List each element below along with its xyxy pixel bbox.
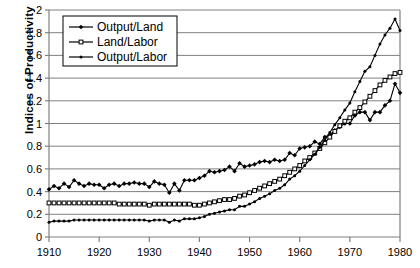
data-point-marker: [338, 124, 342, 128]
data-point-marker: [233, 197, 237, 201]
y-tick-label: 0.8: [27, 140, 42, 152]
data-point-marker: [223, 198, 227, 202]
data-point-marker: [82, 201, 86, 205]
x-tick-label: 1940: [187, 246, 211, 258]
data-point-marker: [223, 209, 226, 212]
data-point-marker: [218, 211, 221, 214]
data-point-marker: [253, 200, 256, 203]
x-tick-label: 1930: [137, 246, 161, 258]
data-point-marker: [217, 169, 222, 174]
data-point-marker: [73, 218, 76, 221]
data-point-marker: [258, 186, 262, 190]
data-point-marker: [183, 217, 186, 220]
data-point-marker: [80, 56, 83, 59]
data-point-marker: [263, 184, 267, 188]
data-point-marker: [263, 195, 266, 198]
data-point-marker: [197, 176, 202, 181]
data-point-marker: [79, 40, 83, 44]
data-point-marker: [363, 100, 367, 104]
data-point-marker: [163, 218, 166, 221]
data-point-marker: [248, 203, 251, 206]
data-point-marker: [212, 170, 217, 175]
data-point-marker: [203, 202, 207, 206]
data-point-marker: [112, 201, 116, 205]
data-point-marker: [247, 163, 252, 168]
chart-container: Indices of Productivity 00.20.40.60.811.…: [0, 0, 420, 268]
data-point-marker: [348, 102, 351, 105]
series-line: [49, 84, 400, 193]
data-point-marker: [57, 201, 61, 205]
data-point-marker: [198, 216, 201, 219]
data-point-marker: [178, 220, 181, 223]
series-land-labor: [47, 71, 402, 208]
data-point-marker: [298, 170, 301, 173]
data-point-marker: [399, 29, 402, 32]
data-point-marker: [88, 218, 91, 221]
y-tick-label: 0.4: [27, 186, 42, 198]
data-point-marker: [298, 164, 302, 168]
data-point-marker: [393, 81, 398, 86]
data-point-marker: [328, 131, 331, 134]
data-point-marker: [383, 78, 387, 82]
legend-label: Output/Labor: [97, 50, 167, 64]
data-point-marker: [252, 162, 257, 167]
data-point-marker: [368, 65, 371, 68]
data-point-marker: [193, 217, 196, 220]
data-point-marker: [313, 153, 316, 156]
data-point-marker: [98, 218, 101, 221]
data-point-marker: [343, 108, 346, 111]
data-point-marker: [198, 203, 202, 207]
data-point-marker: [293, 174, 296, 177]
data-point-marker: [383, 33, 386, 36]
data-point-marker: [373, 89, 377, 93]
data-point-marker: [278, 177, 282, 181]
data-point-marker: [277, 159, 282, 164]
data-point-marker: [267, 160, 272, 165]
data-point-marker: [127, 202, 131, 206]
data-point-marker: [228, 198, 232, 202]
data-point-marker: [348, 116, 352, 120]
data-point-marker: [107, 201, 111, 205]
data-point-marker: [153, 218, 156, 221]
data-point-marker: [283, 183, 286, 186]
data-point-marker: [173, 218, 176, 221]
data-point-marker: [272, 158, 277, 163]
data-point-marker: [208, 201, 212, 205]
data-point-marker: [363, 70, 366, 73]
legend-label: Output/Land: [97, 20, 163, 34]
data-point-marker: [358, 80, 361, 83]
y-tick-label: 0: [36, 231, 42, 243]
data-point-marker: [333, 130, 337, 134]
data-point-marker: [187, 178, 192, 183]
x-tick-label: 1910: [37, 246, 61, 258]
y-tick-label: 1: [36, 118, 42, 130]
data-point-marker: [368, 94, 372, 98]
data-point-marker: [127, 181, 132, 186]
data-point-marker: [338, 116, 341, 119]
productivity-line-chart: 00.20.40.60.811.21.41.61.82 191019201930…: [0, 0, 420, 268]
data-point-marker: [258, 197, 261, 200]
data-point-marker: [373, 54, 376, 57]
data-point-marker: [323, 139, 326, 142]
y-tick-label: 1.4: [27, 72, 42, 84]
data-point-marker: [52, 201, 56, 205]
chart-legend: Output/LandLand/LaborOutput/Labor: [63, 16, 177, 66]
y-tick-label: 1.6: [27, 49, 42, 61]
data-point-marker: [92, 201, 96, 205]
data-point-marker: [193, 203, 197, 207]
data-point-marker: [172, 202, 176, 206]
data-point-marker: [63, 220, 66, 223]
data-point-marker: [353, 90, 356, 93]
data-point-marker: [158, 218, 161, 221]
data-point-marker: [318, 146, 321, 149]
data-point-marker: [253, 189, 257, 193]
data-point-marker: [333, 123, 336, 126]
data-point-marker: [343, 119, 347, 123]
data-point-marker: [103, 218, 106, 221]
data-point-marker: [273, 179, 277, 183]
data-point-marker: [182, 202, 186, 206]
data-point-marker: [53, 220, 56, 223]
y-tick-label: 1.2: [27, 95, 42, 107]
data-point-marker: [152, 202, 156, 206]
data-point-marker: [257, 160, 262, 165]
